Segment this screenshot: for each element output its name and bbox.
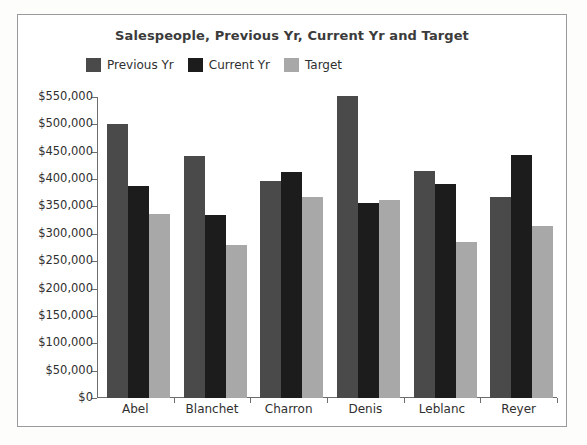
legend-swatch-icon <box>188 58 203 72</box>
bar <box>302 197 323 398</box>
legend-swatch-icon <box>284 58 299 72</box>
bar-group <box>260 97 323 398</box>
y-axis-tick-label: $350,000 <box>38 198 93 212</box>
bar <box>260 181 281 398</box>
y-axis-tick-label: $100,000 <box>38 335 93 349</box>
x-axis-tick-mark <box>557 398 558 403</box>
bar <box>128 186 149 398</box>
bar <box>184 156 205 398</box>
y-axis-tick-label: $200,000 <box>38 281 93 295</box>
bar-group <box>107 97 170 398</box>
y-axis-tick-label: $500,000 <box>38 116 93 130</box>
legend-entry: Previous Yr <box>86 58 174 72</box>
plot-area: $0$50,000$100,000$150,000$200,000$250,00… <box>97 97 557 398</box>
legend-swatch-icon <box>86 58 101 72</box>
bar <box>379 200 400 398</box>
legend-entry: Target <box>284 58 342 72</box>
x-axis-category-label: Abel <box>97 402 174 416</box>
legend-label: Current Yr <box>209 58 270 72</box>
y-axis-tick-label: $150,000 <box>38 308 93 322</box>
bar-group <box>337 97 400 398</box>
y-axis-tick-label: $400,000 <box>38 171 93 185</box>
y-axis-line <box>97 97 98 398</box>
bar <box>532 226 553 398</box>
chart-title: Salespeople, Previous Yr, Current Yr and… <box>18 28 566 43</box>
bar <box>149 214 170 398</box>
bar <box>337 96 358 398</box>
legend-entry: Current Yr <box>188 58 270 72</box>
y-axis-tick-label: $300,000 <box>38 226 93 240</box>
bar <box>511 155 532 398</box>
chart-legend: Previous YrCurrent YrTarget <box>86 58 342 72</box>
y-axis-tick-label: $50,000 <box>45 363 93 377</box>
bar <box>435 184 456 398</box>
bar <box>107 124 128 398</box>
x-axis-category-label: Charron <box>250 402 327 416</box>
legend-label: Previous Yr <box>107 58 174 72</box>
y-axis-tick-label: $450,000 <box>38 144 93 158</box>
y-axis-tick-label: $0 <box>78 390 93 404</box>
bar-group <box>184 97 247 398</box>
bar <box>414 171 435 398</box>
bar <box>281 172 302 398</box>
y-axis-tick-label: $250,000 <box>38 253 93 267</box>
y-axis-tick-label: $550,000 <box>38 89 93 103</box>
bar <box>456 242 477 398</box>
bar-group <box>414 97 477 398</box>
bar <box>490 197 511 398</box>
bar <box>205 215 226 398</box>
x-axis-category-label: Denis <box>327 402 404 416</box>
bar <box>358 203 379 398</box>
x-axis-category-label: Reyer <box>480 402 557 416</box>
x-axis-category-label: Blanchet <box>174 402 251 416</box>
legend-label: Target <box>305 58 342 72</box>
bar-group <box>490 97 553 398</box>
chart-frame: Salespeople, Previous Yr, Current Yr and… <box>17 14 567 427</box>
x-axis-category-label: Leblanc <box>404 402 481 416</box>
bar <box>226 245 247 398</box>
